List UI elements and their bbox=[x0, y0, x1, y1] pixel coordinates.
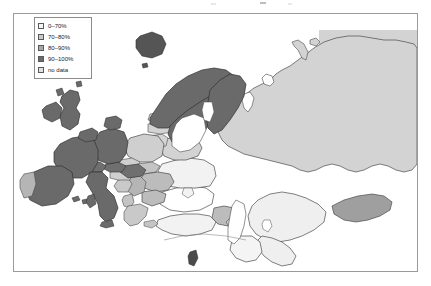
water-barents-inlet bbox=[262, 74, 274, 86]
legend-item-90-100[interactable]: 90–100% bbox=[38, 54, 88, 64]
figure-root: 0–70% 70–80% 80–90% 90–100% no data bbox=[0, 0, 431, 286]
region-denmark bbox=[104, 116, 122, 130]
legend-label-80-90: 80–90% bbox=[48, 45, 70, 52]
region-sardinia bbox=[86, 194, 96, 208]
legend-swatch-no-data bbox=[38, 67, 44, 73]
region-sicily bbox=[100, 220, 114, 228]
region-arctic-islet-a bbox=[310, 38, 320, 46]
legend-item-0-70[interactable]: 0–70% bbox=[38, 21, 88, 31]
region-balearic-islands bbox=[72, 196, 80, 202]
legend-item-80-90[interactable]: 80–90% bbox=[38, 43, 88, 53]
legend-swatch-70-80 bbox=[38, 34, 44, 40]
region-uzbekistan bbox=[258, 236, 296, 266]
map-legend: 0–70% 70–80% 80–90% 90–100% no data bbox=[34, 17, 92, 79]
figure-frame: 0–70% 70–80% 80–90% 90–100% no data bbox=[13, 13, 418, 272]
region-turkey bbox=[156, 214, 216, 236]
scan-artifact-top-c bbox=[288, 3, 292, 5]
region-shetland bbox=[76, 81, 82, 87]
region-kazakhstan bbox=[248, 192, 326, 242]
legend-label-0-70: 0–70% bbox=[48, 23, 67, 30]
region-ireland bbox=[42, 102, 62, 122]
legend-label-70-80: 70–80% bbox=[48, 34, 70, 41]
region-faroe-islands bbox=[142, 63, 148, 68]
scan-artifact-top-a bbox=[211, 3, 216, 5]
legend-item-70-80[interactable]: 70–80% bbox=[38, 32, 88, 42]
legend-swatch-90-100 bbox=[38, 56, 44, 62]
legend-label-90-100: 90–100% bbox=[48, 56, 73, 63]
region-germany bbox=[94, 128, 128, 164]
legend-label-no-data: no data bbox=[48, 67, 68, 74]
region-novaya-zemlya bbox=[292, 40, 308, 60]
region-mongolia bbox=[332, 194, 392, 222]
region-greek-islands bbox=[144, 220, 158, 228]
region-cyprus bbox=[188, 250, 198, 266]
legend-item-no-data[interactable]: no data bbox=[38, 65, 88, 75]
region-hebrides bbox=[56, 88, 64, 96]
region-iceland bbox=[136, 32, 166, 58]
scan-artifact-top-b bbox=[260, 2, 266, 4]
legend-swatch-0-70 bbox=[38, 23, 44, 29]
legend-swatch-80-90 bbox=[38, 45, 44, 51]
region-united-kingdom bbox=[60, 90, 80, 130]
region-poland bbox=[124, 134, 164, 162]
